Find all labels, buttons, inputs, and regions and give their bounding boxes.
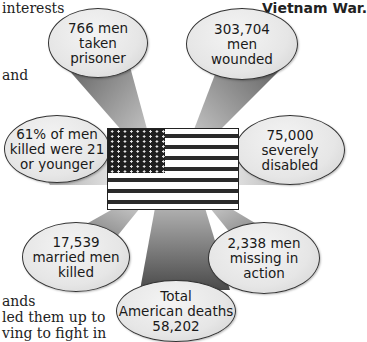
stat-young: 61% of men killed were 21 or younger bbox=[4, 115, 110, 183]
stat-wounded: 303,704 men wounded bbox=[186, 8, 298, 80]
stat-disabled: 75,000 severely disabled bbox=[235, 115, 345, 185]
stat-prisoners: 766 men taken prisoner bbox=[48, 8, 148, 78]
stat-wounded-text: 303,704 men wounded bbox=[211, 22, 273, 67]
stat-young-text: 61% of men killed were 21 or younger bbox=[10, 127, 105, 172]
stat-missing-text: 2,338 men missing in action bbox=[228, 236, 301, 281]
stat-total-text: Total American deaths 58,202 bbox=[119, 289, 234, 334]
stat-missing: 2,338 men missing in action bbox=[208, 222, 320, 294]
stat-prisoners-text: 766 men taken prisoner bbox=[68, 21, 128, 66]
stat-married: 17,539 married men killed bbox=[22, 222, 130, 292]
stat-disabled-text: 75,000 severely disabled bbox=[262, 128, 319, 173]
stat-married-text: 17,539 married men killed bbox=[32, 235, 119, 280]
stat-total: Total American deaths 58,202 bbox=[116, 280, 236, 342]
flag-canton-stars bbox=[108, 129, 165, 173]
us-flag-icon bbox=[107, 128, 239, 210]
